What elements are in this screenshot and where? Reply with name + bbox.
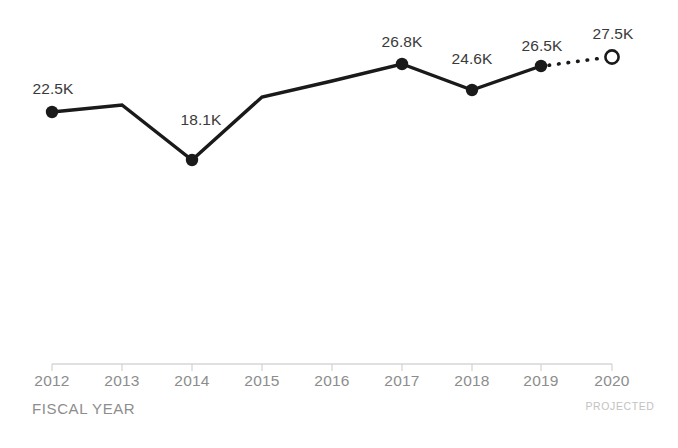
data-value-label-2018: 24.6K xyxy=(451,50,492,68)
x-axis-tick-label-2013: 2013 xyxy=(104,372,139,390)
x-axis-tick-label-2017: 2017 xyxy=(384,372,419,390)
data-value-label-2020: 27.5K xyxy=(592,25,633,43)
x-axis-tick-label-2015: 2015 xyxy=(244,372,279,390)
series-actual-line xyxy=(52,64,541,160)
data-point-marker-hollow-2020 xyxy=(605,50,618,63)
x-axis-tick-label-2018: 2018 xyxy=(454,372,489,390)
x-axis-tick-label-2012: 2012 xyxy=(34,372,69,390)
projected-note-label: PROJECTED xyxy=(586,400,655,412)
data-value-label-2012: 22.5K xyxy=(32,80,73,98)
x-axis-ticks xyxy=(52,364,612,371)
x-axis xyxy=(52,364,612,371)
x-axis-title: FISCAL YEAR xyxy=(32,400,135,417)
data-value-label-2017: 26.8K xyxy=(381,33,422,51)
data-point-marker-2019 xyxy=(535,60,547,72)
data-point-marker-2017 xyxy=(396,58,408,70)
x-axis-tick-label-2020: 2020 xyxy=(594,372,629,390)
data-value-label-2014: 18.1K xyxy=(180,111,221,129)
x-axis-tick-label-2014: 2014 xyxy=(174,372,209,390)
line-chart: 22.5K18.1K26.8K24.6K26.5K27.5K 201220132… xyxy=(0,0,678,448)
data-value-label-2019: 26.5K xyxy=(521,37,562,55)
data-point-marker-2014 xyxy=(186,154,198,166)
series-projected-line xyxy=(549,58,604,65)
data-point-marker-2018 xyxy=(466,84,478,96)
x-axis-tick-label-2019: 2019 xyxy=(523,372,558,390)
x-axis-tick-label-2016: 2016 xyxy=(314,372,349,390)
data-point-marker-2012 xyxy=(46,106,58,118)
